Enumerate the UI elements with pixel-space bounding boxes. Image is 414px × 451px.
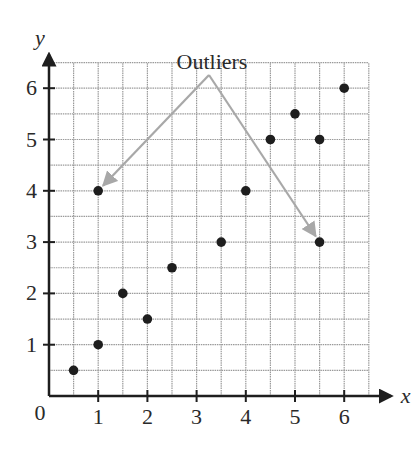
x-tick-label: 1 xyxy=(93,404,104,429)
data-point xyxy=(167,263,177,273)
y-tick-label: 4 xyxy=(26,178,37,203)
tick-labels: 1234561234560xy xyxy=(26,25,411,429)
annotation-arrow xyxy=(209,75,316,236)
data-point xyxy=(339,83,349,93)
y-tick-label: 2 xyxy=(26,280,37,305)
data-point xyxy=(93,186,103,196)
x-tick-label: 3 xyxy=(191,404,202,429)
y-tick-label: 6 xyxy=(26,75,37,100)
data-point xyxy=(315,135,325,145)
data-point xyxy=(69,366,79,376)
data-point xyxy=(241,186,251,196)
data-point xyxy=(315,237,325,247)
tick-marks xyxy=(43,88,344,402)
data-point xyxy=(118,289,128,299)
data-point xyxy=(266,135,276,145)
y-axis-label: y xyxy=(33,25,45,50)
data-point xyxy=(290,109,300,119)
data-point xyxy=(216,237,226,247)
x-tick-label: 2 xyxy=(142,404,153,429)
x-axis-label: x xyxy=(400,383,411,408)
x-tick-label: 4 xyxy=(240,404,251,429)
y-tick-label: 5 xyxy=(26,127,37,152)
data-points xyxy=(69,83,349,375)
scatter-chart: 1234561234560xy Outliers xyxy=(0,0,414,451)
data-point xyxy=(93,340,103,350)
y-tick-label: 3 xyxy=(26,229,37,254)
x-tick-label: 5 xyxy=(290,404,301,429)
data-point xyxy=(143,314,153,324)
x-tick-label: 6 xyxy=(339,404,350,429)
origin-label: 0 xyxy=(35,400,46,425)
annotation-arrow xyxy=(103,75,209,186)
y-tick-label: 1 xyxy=(26,332,37,357)
annotation-label: Outliers xyxy=(177,49,248,74)
outliers-annotation: Outliers xyxy=(103,49,316,236)
